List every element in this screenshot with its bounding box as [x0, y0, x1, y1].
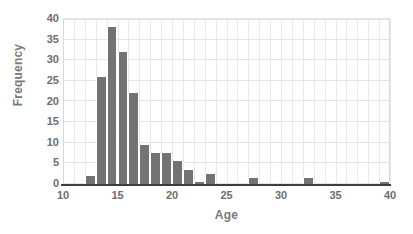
x-axis-tick-label: 40	[373, 190, 407, 201]
y-axis-tick-label: 15	[31, 116, 59, 127]
y-axis-tick-label: 25	[31, 75, 59, 86]
plot-area	[63, 19, 390, 184]
y-axis-tick-label: 40	[31, 13, 59, 24]
vertical-gridline	[390, 19, 391, 184]
bar	[118, 52, 129, 184]
bar	[139, 145, 150, 184]
y-axis-tick-label: 30	[31, 54, 59, 65]
y-axis-tick-label: 5	[31, 157, 59, 168]
x-axis-tick-labels: 10152025303540	[63, 190, 390, 204]
x-axis-line	[61, 184, 391, 186]
y-axis-tick-label: 0	[31, 178, 59, 189]
x-axis-tick-label: 20	[155, 190, 189, 201]
x-axis-title: Age	[63, 208, 390, 222]
bar	[96, 77, 107, 184]
histogram-figure: Frequency 0510152025303540 1015202530354…	[0, 0, 413, 234]
bar	[150, 153, 161, 184]
bar	[85, 176, 96, 184]
bar	[172, 161, 183, 184]
bar	[205, 174, 216, 184]
x-axis-tick-label: 30	[264, 190, 298, 201]
y-axis-tick-label: 35	[31, 34, 59, 45]
x-axis-tick-label: 25	[210, 190, 244, 201]
x-axis-tick-label: 10	[46, 190, 80, 201]
x-axis-tick-label: 35	[319, 190, 353, 201]
bar	[128, 93, 139, 184]
y-axis-title: Frequency	[11, 30, 25, 120]
bars-container	[63, 19, 390, 184]
bar	[161, 153, 172, 184]
bar	[183, 170, 194, 184]
y-axis-tick-labels: 0510152025303540	[28, 19, 59, 184]
bar	[107, 27, 118, 184]
y-axis-tick-label: 10	[31, 137, 59, 148]
y-axis-tick-label: 20	[31, 96, 59, 107]
x-axis-tick-label: 15	[101, 190, 135, 201]
